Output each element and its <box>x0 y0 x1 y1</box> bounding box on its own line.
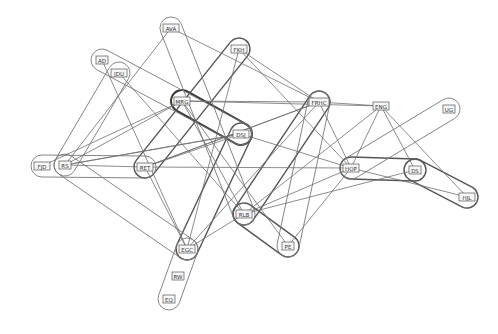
node-pe[interactable]: PE <box>282 242 294 250</box>
edge-jdu-rlb <box>119 73 244 214</box>
node-label-text: AVA <box>166 26 177 32</box>
node-label-text: FRHC <box>312 100 327 106</box>
edge-eng-hjl <box>381 106 467 197</box>
node-label-text: AD <box>98 58 106 64</box>
node-label-text: RET <box>140 165 151 171</box>
edge-hop-pe <box>288 168 351 246</box>
edge-rlb-egc <box>187 214 244 249</box>
node-rlb[interactable]: RLB <box>236 210 252 218</box>
node-ad[interactable]: AD <box>96 56 108 64</box>
node-eng[interactable]: ENG <box>373 102 389 110</box>
edge-frhc-hop <box>319 102 351 168</box>
edge-ret-frhc <box>145 102 319 167</box>
node-dsj[interactable]: DSJ <box>233 130 249 139</box>
edge-fkh-frhc <box>239 49 319 102</box>
node-label-text: EQ <box>165 297 173 303</box>
node-jdu[interactable]: JDU <box>111 69 127 78</box>
node-label-text: EGC <box>181 247 193 253</box>
node-label-text: RW <box>173 274 183 280</box>
node-hjl[interactable]: HJL <box>459 193 475 202</box>
edge-ad-egc <box>102 60 187 249</box>
node-label-text: FKH <box>234 47 245 53</box>
hypergraph-diagram: AVAFKHADJDUMRGFRHCENGUGDSJFJDRSRETHOPDSH… <box>0 0 498 334</box>
node-label-text: RS <box>61 163 69 169</box>
node-eq[interactable]: EQ <box>163 295 175 303</box>
node-label-text: JDU <box>113 71 124 78</box>
edge-mrg-pe <box>182 101 288 246</box>
edge-ret-egc <box>145 167 187 249</box>
hyperedge-hull-jdu-rs <box>54 62 130 176</box>
edge-eng-ds <box>381 106 415 170</box>
node-ug[interactable]: UG <box>443 105 455 113</box>
node-egc[interactable]: EGC <box>179 245 195 253</box>
node-label-text: DS <box>411 168 419 174</box>
node-label-text: PE <box>285 244 292 250</box>
edge-ret-hop <box>145 167 351 168</box>
edge-fkh-hop <box>239 49 351 168</box>
node-rw[interactable]: RW <box>172 272 184 280</box>
node-mrg[interactable]: MRG <box>174 97 190 105</box>
node-label-text: FJD <box>37 164 46 171</box>
node-label-text: MRG <box>176 99 189 105</box>
node-label-text: ENG <box>375 104 387 110</box>
node-ds[interactable]: DS <box>409 166 421 174</box>
node-rs[interactable]: RS <box>59 161 71 169</box>
hypergraph-canvas: AVAFKHADJDUMRGFRHCENGUGDSJFJDRSRETHOPDSH… <box>0 0 498 334</box>
node-fjd[interactable]: FJD <box>34 162 50 171</box>
node-label-text: HJL <box>463 195 473 202</box>
edge-rlb-ds <box>244 170 415 214</box>
node-frhc[interactable]: FRHC <box>309 98 329 106</box>
node-label-text: RLB <box>239 212 250 218</box>
edge-eng-hop <box>351 106 381 168</box>
node-label-text: UG <box>445 107 453 113</box>
node-ava[interactable]: AVA <box>163 24 179 32</box>
node-label-text: DSJ <box>236 132 246 139</box>
hyperedge-hull-pe-frhc <box>277 91 330 257</box>
edge-frhc-egc <box>187 102 319 249</box>
edge-fjd-mrg <box>42 101 182 166</box>
node-fkh[interactable]: FKH <box>231 45 247 53</box>
node-ret[interactable]: RET <box>137 163 153 171</box>
node-label-text: HOP <box>345 166 357 172</box>
node-hop[interactable]: HOP <box>343 164 359 172</box>
